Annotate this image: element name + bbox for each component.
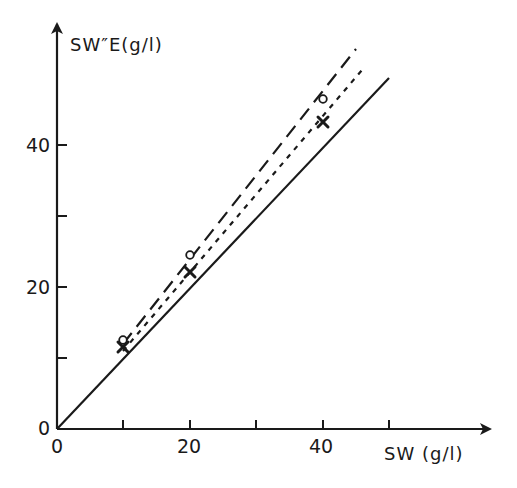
series-solid-line [57, 78, 389, 429]
x-tick-label-20: 20 [177, 435, 201, 457]
y-axis-label: SW″E(g/l) [70, 34, 163, 55]
x-ticks [123, 420, 389, 429]
y-tick-label-40: 40 [26, 134, 50, 156]
y-ticks [57, 145, 67, 358]
series-short-dashed-line [123, 70, 362, 351]
cross-marker-40 [318, 117, 328, 127]
axes [57, 24, 490, 429]
cross-marker-20 [185, 267, 195, 277]
y-tick-label-0: 0 [38, 417, 50, 439]
chart: 0 20 40 0 20 40 SW″E(g/l) SW (g/l) [0, 0, 517, 488]
circle-marker-40 [319, 95, 327, 103]
cross-markers [118, 117, 328, 352]
x-tick-label-40: 40 [309, 435, 333, 457]
circle-marker-20 [186, 251, 194, 259]
y-tick-label-20: 20 [26, 276, 50, 298]
series-long-dashed-line [123, 49, 356, 344]
x-tick-label-0: 0 [51, 435, 63, 457]
circle-markers [119, 95, 327, 344]
x-axis-label: SW (g/l) [384, 443, 463, 464]
